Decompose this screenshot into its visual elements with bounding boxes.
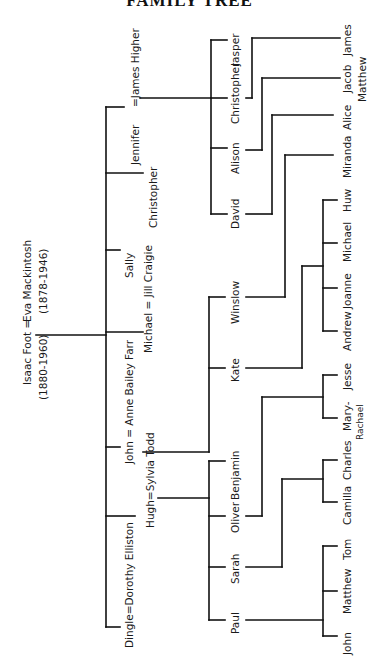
benjamin-label: Benjamin (230, 451, 241, 500)
james-higher-label: =James Higher (130, 28, 141, 107)
eva-mackintosh-label: Eva Mackintosh (22, 240, 33, 322)
alice-label: Alice (342, 105, 353, 130)
isaac-foot-dates: (1880-1960) (38, 335, 49, 400)
rachael-label: Rachael (356, 404, 365, 440)
mary-label: Mary- (342, 401, 353, 431)
miranda-label: Miranda (342, 136, 353, 178)
tree-connector-lines (0, 0, 379, 656)
david-label: David (230, 199, 241, 229)
jesse-label: Jesse (342, 363, 353, 390)
michael-g4-label: Michael (342, 222, 353, 262)
paul-label: Paul (230, 612, 241, 634)
jennifer-label: Jennifer (130, 125, 141, 165)
christopher-g3-label: Christopher (230, 63, 241, 124)
hugh-sylvia-label: Hugh=Sylvia Todd (145, 432, 156, 528)
andrew-label: Andrew (342, 311, 353, 351)
huw-label: Huw (342, 189, 353, 212)
matthew-label: Matthew (342, 569, 353, 614)
camilla-label: Camilla (342, 486, 353, 525)
dingle-dorothy-label: Dingle=Dorothy Elliston (124, 522, 135, 648)
oliver-label: Oliver (230, 502, 241, 533)
winslow-label: Winslow (230, 281, 241, 324)
eva-mackintosh-dates: (1878-1946) (38, 249, 49, 314)
jasper-label: Jasper (230, 34, 241, 66)
tom-label: Tom (342, 539, 353, 560)
john-anne-label: John = Anne Bailey Farr (124, 340, 135, 464)
michael-jill-label: Michael = Jill Craigie (143, 245, 154, 353)
alison-label: Alison (230, 142, 241, 174)
sally-label: Sally (124, 253, 135, 278)
joanne-label: Joanne (342, 273, 353, 309)
jacob-label: Jacob (342, 65, 353, 93)
matthew-g4a-label: Matthew (357, 57, 368, 102)
isaac-foot-label: Isaac Foot = (22, 320, 33, 385)
christopher-g2-label: Christopher (148, 167, 159, 228)
john-g4-label: John (342, 632, 353, 655)
family-tree-diagram: FAMILY TREE (0, 0, 379, 656)
charles-label: Charles (342, 440, 353, 480)
sarah-label: Sarah (230, 553, 241, 584)
james-label: James (342, 24, 353, 56)
kate-label: Kate (230, 358, 241, 382)
